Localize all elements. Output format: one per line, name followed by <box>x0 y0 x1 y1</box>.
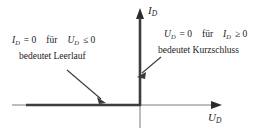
right-eq-conjunction: für <box>202 29 213 39</box>
left-eq-rhs-sub: D <box>74 39 79 46</box>
horizontal-axis-label-sub: D <box>216 116 221 125</box>
left-annotation-equation: ID= 0fürUD≤ 0 <box>12 36 95 46</box>
right-eq-lhs-rel: = 0 <box>180 29 192 39</box>
vertical-axis-label-sub: D <box>152 9 157 18</box>
horizontal-axis-label-var: U <box>208 111 216 123</box>
left-eq-lhs-sub: D <box>15 39 20 46</box>
left-eq-lhs-rel: = 0 <box>24 35 36 45</box>
right-eq-rhs-sub: D <box>226 33 231 40</box>
diode-characteristic-curve <box>26 18 141 106</box>
horizontal-axis-arrowhead-right-arrow-icon <box>211 101 222 109</box>
right-eq-lhs-sub: D <box>171 33 176 40</box>
vertical-axis-label: ID <box>148 5 157 18</box>
right-annotation-caption: bedeutet Kurzschluss <box>158 46 239 56</box>
vertical-axis-arrowhead-up-arrow-icon <box>136 8 144 19</box>
diode-characteristic-figure: ID= 0fürUD≤ 0 bedeutet Leerlauf UD= 0für… <box>0 0 264 135</box>
left-eq-conjunction: für <box>46 35 57 45</box>
right-eq-lhs-var: U <box>164 29 171 39</box>
left-annotation-caption: bedeutet Leerlauf <box>19 52 86 62</box>
right-annotation-equation: UD= 0fürID≥ 0 <box>164 30 247 40</box>
figure-graphics-layer <box>0 0 264 135</box>
left-eq-rhs-rel: ≤ 0 <box>83 35 95 45</box>
right-eq-rhs-rel: ≥ 0 <box>235 29 247 39</box>
left-annotation-pointer-arrow-icon <box>67 70 106 104</box>
horizontal-axis-label: UD <box>208 112 221 125</box>
